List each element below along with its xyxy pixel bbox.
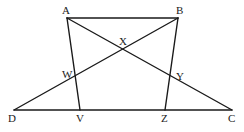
label-point-d: D (8, 112, 16, 124)
label-point-z: Z (161, 112, 168, 124)
label-point-b: B (176, 4, 183, 16)
segments (14, 18, 232, 110)
label-point-x: X (119, 35, 127, 47)
point-labels: ABCDVZXWY (8, 4, 235, 124)
geometry-diagram: ABCDVZXWY (0, 0, 244, 132)
label-point-y: Y (176, 70, 184, 82)
label-point-c: C (228, 112, 235, 124)
label-point-v: V (76, 112, 84, 124)
label-point-w: W (62, 68, 73, 80)
segment-bz (165, 18, 178, 110)
segment-ac (67, 18, 232, 110)
segment-av (67, 18, 80, 110)
segment-bd (14, 18, 178, 110)
label-point-a: A (62, 4, 70, 16)
